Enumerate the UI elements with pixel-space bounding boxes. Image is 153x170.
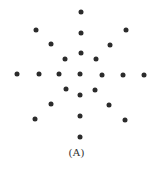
dot xyxy=(141,73,146,78)
dot xyxy=(93,87,98,92)
dot xyxy=(15,72,20,77)
dot xyxy=(78,51,83,56)
dot xyxy=(33,116,38,121)
dot xyxy=(57,72,62,77)
dot xyxy=(48,42,53,47)
dot xyxy=(78,135,83,140)
dot xyxy=(78,72,83,77)
figure-caption: (A) xyxy=(0,146,153,158)
dot-pattern-figure: (A) xyxy=(0,0,153,170)
dot xyxy=(78,93,83,98)
dot xyxy=(107,102,112,107)
dot xyxy=(33,27,38,32)
dot xyxy=(63,57,68,62)
dot xyxy=(78,113,83,118)
dot xyxy=(123,28,128,33)
dot xyxy=(122,118,127,123)
dot xyxy=(93,57,98,62)
dot xyxy=(108,43,113,48)
dot xyxy=(99,72,104,77)
dot xyxy=(78,9,83,14)
dot xyxy=(63,87,68,92)
dot xyxy=(36,72,41,77)
dot xyxy=(48,102,53,107)
dot xyxy=(78,31,83,36)
dot xyxy=(120,73,125,78)
